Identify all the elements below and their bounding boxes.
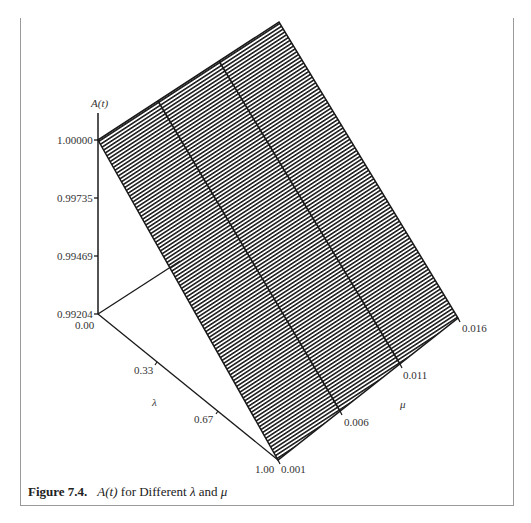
lambda-axis-title: λ bbox=[152, 396, 157, 408]
caption-at: A(t) bbox=[97, 484, 117, 499]
back-base-line bbox=[98, 261, 180, 314]
z-tick-label: 0.99735 bbox=[57, 192, 93, 204]
lambda-axis-ticks bbox=[155, 362, 218, 414]
mu-tick-label: 0.006 bbox=[344, 416, 369, 428]
figure-caption: Figure 7.4.A(t) for Different λ and μ bbox=[28, 484, 227, 500]
lambda-tick-label: 0.33 bbox=[134, 364, 153, 376]
mu-axis-title: μ bbox=[400, 398, 406, 410]
caption-mu: μ bbox=[221, 484, 228, 499]
mu-tick-label: 0.011 bbox=[403, 369, 427, 381]
z-axis-title: A(t) bbox=[91, 97, 108, 109]
caption-and: and bbox=[196, 484, 221, 499]
z-tick-label: 1.00000 bbox=[57, 134, 93, 146]
caption-text: for Different bbox=[118, 484, 190, 499]
figure-number: Figure 7.4. bbox=[28, 484, 87, 499]
lambda-tick-label: 1.00 bbox=[255, 463, 274, 475]
lambda-tick-label: 0.00 bbox=[75, 319, 94, 331]
mu-tick-label: 0.016 bbox=[462, 322, 487, 334]
z-tick-label: 0.99469 bbox=[57, 250, 93, 262]
lambda-tick-label: 0.67 bbox=[194, 413, 213, 425]
mu-tick-label: 0.001 bbox=[281, 463, 306, 475]
